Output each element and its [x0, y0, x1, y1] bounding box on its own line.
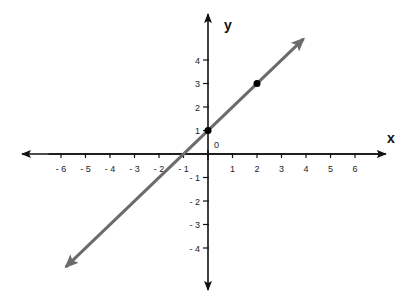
- y-tick-label: - 2: [189, 197, 200, 207]
- x-tick-label: - 5: [80, 164, 91, 174]
- y-tick-label: 1: [195, 126, 200, 136]
- x-tick-label: 3: [279, 164, 284, 174]
- x-tick-label: 1: [230, 164, 235, 174]
- coordinate-plane-chart: - 6- 5- 4- 3- 2- 1123456- 4- 3- 2- 11234…: [0, 0, 414, 302]
- y-axis-label: y: [224, 17, 232, 33]
- data-point: [205, 127, 212, 134]
- x-tick-label: 6: [352, 164, 357, 174]
- y-tick-label: - 1: [189, 173, 200, 183]
- x-tick-label: - 3: [129, 164, 140, 174]
- y-tick-label: 3: [195, 79, 200, 89]
- x-tick-label: - 1: [178, 164, 189, 174]
- y-tick-label: - 3: [189, 220, 200, 230]
- x-tick-label: 5: [328, 164, 333, 174]
- data-series: [66, 39, 304, 267]
- labels: x y 0: [214, 17, 395, 150]
- x-tick-label: 2: [254, 164, 259, 174]
- line-series-upper: [185, 39, 304, 153]
- x-tick-label: - 4: [105, 164, 116, 174]
- origin-label: 0: [214, 140, 219, 150]
- axes: [22, 14, 386, 290]
- data-point: [254, 80, 261, 87]
- y-tick-label: 4: [195, 56, 200, 66]
- y-tick-label: - 4: [189, 244, 200, 254]
- x-tick-label: 4: [303, 164, 308, 174]
- x-tick-label: - 6: [56, 164, 67, 174]
- y-tick-label: 2: [195, 103, 200, 113]
- x-axis-label: x: [387, 130, 395, 146]
